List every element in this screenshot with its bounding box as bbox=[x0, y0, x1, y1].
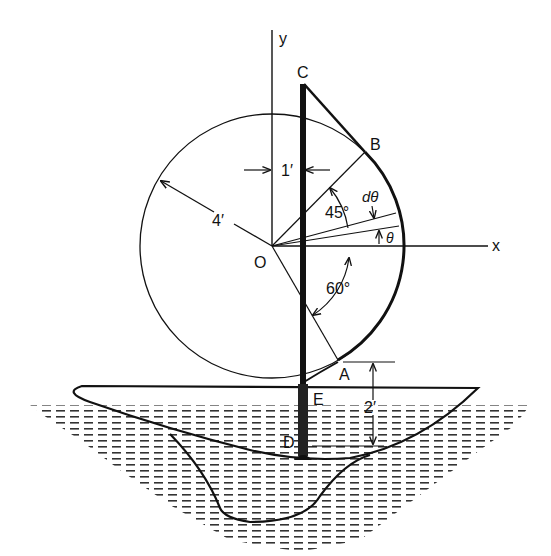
radius-line-upper bbox=[161, 181, 214, 212]
radius-label: 4′ bbox=[212, 212, 224, 229]
sail-arc bbox=[338, 152, 404, 360]
angle-60-label: 60° bbox=[326, 280, 350, 297]
offset-label: 1′ bbox=[281, 162, 293, 179]
y-axis-label: y bbox=[279, 30, 287, 47]
mast-below-deck bbox=[298, 384, 308, 456]
origin-label: O bbox=[254, 254, 266, 271]
point-d-label: D bbox=[283, 434, 295, 451]
d-theta-arrow bbox=[372, 206, 374, 218]
sail-diagram: y x O 4′ 45° 60° dθ θ 1′ 2′ C B A E D bbox=[0, 0, 551, 556]
point-b-label: B bbox=[370, 136, 381, 153]
water-surface bbox=[20, 400, 540, 556]
point-c-label: C bbox=[297, 64, 309, 81]
d-theta-label: dθ bbox=[362, 188, 378, 205]
sail-edge-cb bbox=[304, 84, 365, 152]
mast bbox=[300, 84, 306, 384]
point-e-label: E bbox=[313, 391, 324, 408]
height-label: 2′ bbox=[364, 399, 376, 416]
sail-edge-ae bbox=[304, 362, 338, 382]
x-axis-label: x bbox=[492, 237, 500, 254]
angle-45-label: 45° bbox=[325, 204, 349, 221]
theta-label: θ bbox=[386, 230, 394, 246]
point-a-label: A bbox=[339, 366, 350, 383]
radius-line bbox=[234, 224, 272, 246]
